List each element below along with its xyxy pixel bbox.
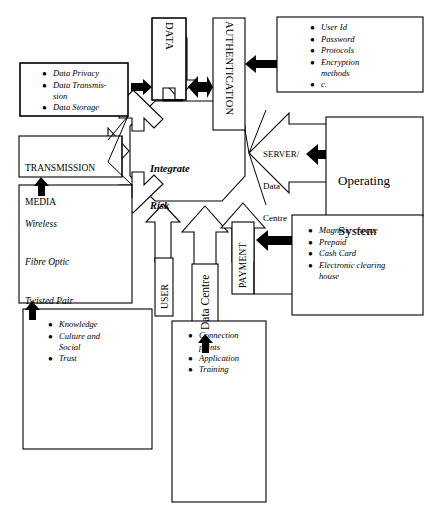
list-item-label: Data Transmis- (53, 80, 126, 91)
list-item-continuation: sion (42, 91, 126, 102)
bullet-icon: ● (308, 237, 319, 249)
bullet-icon: ● (48, 353, 59, 365)
list-item: ● Trust (48, 353, 140, 365)
media-types-line3: Twisted Pair (25, 295, 125, 308)
list-item: ● Prepaid (308, 237, 420, 249)
list-item: ● Training (188, 364, 264, 376)
list-item-continuation: Social (48, 342, 140, 353)
list-item-label: Electronic clearing (319, 260, 420, 271)
list-item: ● Electronic clearing (308, 260, 420, 272)
bullet-icon: ● (188, 330, 199, 342)
list-item-label: Password (321, 34, 415, 45)
list-item-label: Trust (59, 353, 140, 364)
authentication-channel-label: AUTHENTICATION (224, 21, 235, 115)
server-label-line3: Centre (263, 213, 323, 224)
list-item: ● User Id (310, 22, 415, 34)
list-item-label: Training (199, 364, 264, 375)
bullet-icon: ● (308, 225, 319, 237)
list-item-continuation: house (308, 271, 420, 282)
bullet-icon: ● (308, 248, 319, 260)
solid-arrow-auth-details-to-channel (245, 55, 277, 73)
solid-double-arrow-data-auth (188, 76, 213, 98)
bullet-icon: ● (48, 331, 59, 343)
list-item: ● Data Storage (42, 102, 126, 114)
list-item-label: Data Privacy (53, 68, 126, 79)
list-item: ● Knowledge (48, 319, 140, 331)
list-item-label: Knowledge (59, 319, 140, 330)
list-item: ● Connection (188, 330, 264, 342)
media-types-text: Wireless Fibre Optic Twisted Pair (25, 192, 125, 333)
bullet-icon: ● (42, 68, 53, 80)
bullet-icon: ● (308, 260, 319, 272)
list-item: ● c. (310, 79, 415, 91)
payment-methods-list: ● Magnetic cheque ● Prepaid ● Cash Card … (308, 225, 420, 283)
center-label-line2: Risk (150, 200, 220, 212)
connector-auth-to-server (245, 130, 249, 153)
media-types-line1: Wireless (25, 218, 125, 231)
list-item-continuation: methods (310, 68, 415, 79)
server-label-line2: Data (263, 181, 323, 192)
bullet-icon: ● (310, 57, 321, 69)
user-channel-label: USER (160, 284, 170, 309)
connector-payment-riser (254, 262, 292, 294)
list-item: ● Cash Card (308, 248, 420, 260)
list-item-label: Magnetic cheque (319, 225, 420, 236)
bullet-icon: ● (310, 34, 321, 46)
bullet-icon: ● (310, 79, 321, 91)
human-factors-list: ● Knowledge ● Culture and Social ● Trust (48, 319, 140, 365)
list-item-continuation: points (188, 342, 264, 353)
bullet-icon: ● (310, 22, 321, 34)
list-item: ● Data Transmis- (42, 80, 126, 92)
bullet-icon: ● (188, 364, 199, 376)
list-item: ● Data Privacy (42, 68, 126, 80)
payment-channel-label: PAYMENT (238, 242, 248, 288)
datacentre-channel-label: Data Centre (199, 275, 211, 330)
center-label-line1: Integrate (150, 163, 220, 175)
bullet-icon: ● (42, 102, 53, 114)
list-item-label: c. (321, 79, 415, 90)
list-item-label: Data Storage (53, 102, 126, 113)
server-label-line1: SERVER/ (263, 149, 323, 160)
list-item-label: Cash Card (319, 248, 420, 259)
list-item: ● Magnetic cheque (308, 225, 420, 237)
list-item-label: Encryption (321, 57, 415, 68)
list-item-label: Prepaid (319, 237, 420, 248)
list-item-label: Connection (199, 330, 264, 341)
octagon-top-tick (163, 99, 183, 101)
data-centre-details-list: ● Connection points ● Application ● Trai… (188, 330, 264, 376)
list-item-label: Application (199, 353, 264, 364)
transmission-label-line1: TRANSMISSION (25, 163, 120, 174)
center-label: Integrate Risk (150, 138, 220, 237)
list-item: ● Password (310, 34, 415, 46)
authentication-details-list: ● User Id ● Password ● Protocols ● Encry… (310, 22, 415, 91)
list-item: ● Culture and (48, 331, 140, 343)
bullet-icon: ● (42, 80, 53, 92)
list-item: ● Protocols (310, 45, 415, 57)
bullet-icon: ● (310, 45, 321, 57)
list-item-label: Protocols (321, 45, 415, 56)
data-risks-list: ● Data Privacy ● Data Transmis- sion ● D… (42, 68, 126, 114)
operating-system-line1: Operating (338, 173, 426, 190)
bullet-icon: ● (48, 319, 59, 331)
media-types-line2: Fibre Optic (25, 256, 125, 269)
diagram-canvas: Integrate Risk DATA AUTHENTICATION USER … (0, 0, 432, 529)
bullet-icon: ● (188, 353, 199, 365)
data-channel-label: DATA (164, 22, 175, 50)
list-item: ● Application (188, 353, 264, 365)
list-item: ● Encryption (310, 57, 415, 69)
list-item-label: Culture and (59, 331, 140, 342)
list-item-label: User Id (321, 22, 415, 33)
